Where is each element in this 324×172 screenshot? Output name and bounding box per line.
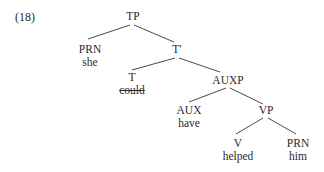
node-word: she (60, 56, 120, 69)
node-vp: VP (236, 104, 296, 117)
edge-vp-v (236, 118, 263, 134)
node-prn-subject: PRN she (60, 43, 120, 69)
node-label: T′ (147, 43, 207, 56)
node-word: helped (208, 150, 268, 163)
node-label: VP (236, 104, 296, 117)
node-label: T (102, 71, 162, 84)
node-label: PRN (268, 137, 324, 150)
edge-auxp-vp (230, 88, 263, 104)
node-v: V helped (208, 137, 268, 163)
node-label: V (208, 137, 268, 150)
node-label: AUXP (198, 74, 258, 87)
edge-auxp-aux (189, 88, 226, 102)
node-t: T could (102, 71, 162, 97)
edge-tp-prn (88, 25, 130, 39)
node-label: TP (103, 10, 163, 23)
edge-tbar-t (132, 58, 175, 70)
node-auxp: AUXP (198, 74, 258, 87)
node-tbar: T′ (147, 43, 207, 56)
node-prn-object: PRN him (268, 137, 324, 163)
node-aux: AUX have (159, 104, 219, 130)
node-word: have (159, 117, 219, 130)
node-word-struck: could (102, 84, 162, 97)
edge-tp-tbar (134, 25, 174, 42)
node-label: AUX (159, 104, 219, 117)
edge-vp-prn (268, 118, 296, 134)
edge-tbar-auxp (179, 58, 220, 72)
node-tp: TP (103, 10, 163, 23)
node-label: PRN (60, 43, 120, 56)
node-word: him (268, 150, 324, 163)
